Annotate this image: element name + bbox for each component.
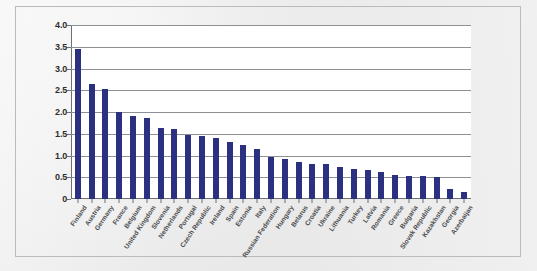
y-axis-labels: 4.03.53.02.52.01.51.00.50 [34, 25, 67, 199]
bar[interactable] [351, 169, 357, 199]
bar[interactable] [158, 128, 164, 199]
bar[interactable] [199, 136, 205, 199]
x-axis-tick-mark [160, 199, 161, 203]
bar-slot[interactable] [99, 25, 113, 199]
bar[interactable] [378, 172, 384, 199]
plot-area [71, 25, 471, 199]
x-axis-tick-mark [298, 199, 299, 203]
bar-slot[interactable] [209, 25, 223, 199]
bar[interactable] [406, 176, 412, 199]
x-axis-tick-mark [436, 199, 437, 203]
x-axis-tick-mark [77, 199, 78, 203]
bar-slot[interactable] [126, 25, 140, 199]
bar[interactable] [254, 149, 260, 199]
bar-slot[interactable] [443, 25, 457, 199]
bar[interactable] [144, 118, 150, 199]
bar-slot[interactable] [319, 25, 333, 199]
bar[interactable] [392, 175, 398, 199]
x-axis-tick-mark [188, 199, 189, 203]
bar[interactable] [420, 176, 426, 199]
bar-slot[interactable] [140, 25, 154, 199]
y-axis-tick-label: 3.5 [55, 42, 67, 52]
x-axis-tick-mark [395, 199, 396, 203]
bar[interactable] [171, 129, 177, 199]
bar-slot[interactable] [292, 25, 306, 199]
bar-slot[interactable] [223, 25, 237, 199]
bar[interactable] [268, 157, 274, 199]
x-axis-tick-mark [119, 199, 120, 203]
bar-slot[interactable] [278, 25, 292, 199]
x-axis-tick-mark [105, 199, 106, 203]
y-axis-tick-label: 2.0 [55, 107, 67, 117]
bar-slot[interactable] [71, 25, 85, 199]
bar-slot[interactable] [112, 25, 126, 199]
x-axis-tick-mark [229, 199, 230, 203]
bar[interactable] [130, 116, 136, 199]
bar[interactable] [461, 192, 467, 199]
x-axis-tick-mark [367, 199, 368, 203]
bar-slot[interactable] [361, 25, 375, 199]
x-axis-tick-mark [174, 199, 175, 203]
bar[interactable] [296, 162, 302, 199]
chart-frame: 4.03.53.02.52.01.51.00.50 FinlandAustria… [15, 6, 521, 257]
bar-slot[interactable] [457, 25, 471, 199]
bar[interactable] [282, 159, 288, 199]
x-axis-tick-mark [215, 199, 216, 203]
y-axis-tick-label: 3.0 [55, 64, 67, 74]
bar[interactable] [227, 142, 233, 199]
bar-slot[interactable] [250, 25, 264, 199]
bar[interactable] [240, 145, 246, 199]
bar-slot[interactable] [237, 25, 251, 199]
bar[interactable] [116, 112, 122, 199]
x-axis-tick-mark [146, 199, 147, 203]
x-axis-tick-mark [202, 199, 203, 203]
x-axis-tick-mark [284, 199, 285, 203]
caption-strip [16, 245, 520, 256]
x-axis-tick-mark [408, 199, 409, 203]
bar-slot[interactable] [388, 25, 402, 199]
y-axis-tick-label: 2.5 [55, 85, 67, 95]
bar[interactable] [447, 189, 453, 199]
chart-page: 4.03.53.02.52.01.51.00.50 FinlandAustria… [0, 0, 537, 271]
x-axis-tick-mark [326, 199, 327, 203]
bar[interactable] [102, 89, 108, 199]
x-axis-tick-mark [312, 199, 313, 203]
bar-slot[interactable] [402, 25, 416, 199]
bar[interactable] [309, 164, 315, 199]
bar-slot[interactable] [416, 25, 430, 199]
bar-slot[interactable] [195, 25, 209, 199]
y-axis-tick-label: 1.0 [55, 151, 67, 161]
bar-slot[interactable] [181, 25, 195, 199]
y-axis-tick-label: 4.0 [55, 20, 67, 30]
y-axis-tick-label: 0.5 [55, 172, 67, 182]
bar-slot[interactable] [305, 25, 319, 199]
bar-slot[interactable] [264, 25, 278, 199]
bar[interactable] [213, 138, 219, 199]
x-axis-tick-mark [464, 199, 465, 203]
bar-slot[interactable] [374, 25, 388, 199]
x-axis-labels: FinlandAustriaGermanyFranceBelgiumUnited… [71, 204, 511, 271]
bar-slot[interactable] [347, 25, 361, 199]
bar[interactable] [75, 49, 81, 199]
bar-slot[interactable] [333, 25, 347, 199]
x-axis-tick-mark [270, 199, 271, 203]
bar[interactable] [89, 84, 95, 199]
x-axis-tick-mark [381, 199, 382, 203]
x-axis-tick-mark [257, 199, 258, 203]
x-axis-tick-mark [450, 199, 451, 203]
bar[interactable] [323, 164, 329, 199]
bar[interactable] [365, 170, 371, 199]
bar[interactable] [185, 135, 191, 199]
y-axis-tick-label: 1.5 [55, 129, 67, 139]
bar[interactable] [337, 167, 343, 199]
bar-slot[interactable] [168, 25, 182, 199]
x-axis-tick-mark [91, 199, 92, 203]
x-axis-tick-mark [422, 199, 423, 203]
bar-slot[interactable] [85, 25, 99, 199]
bar[interactable] [434, 177, 440, 199]
bar-slot[interactable] [430, 25, 444, 199]
x-axis-tick-mark [353, 199, 354, 203]
x-axis-tick-mark [243, 199, 244, 203]
bar-series [71, 25, 471, 199]
bar-slot[interactable] [154, 25, 168, 199]
